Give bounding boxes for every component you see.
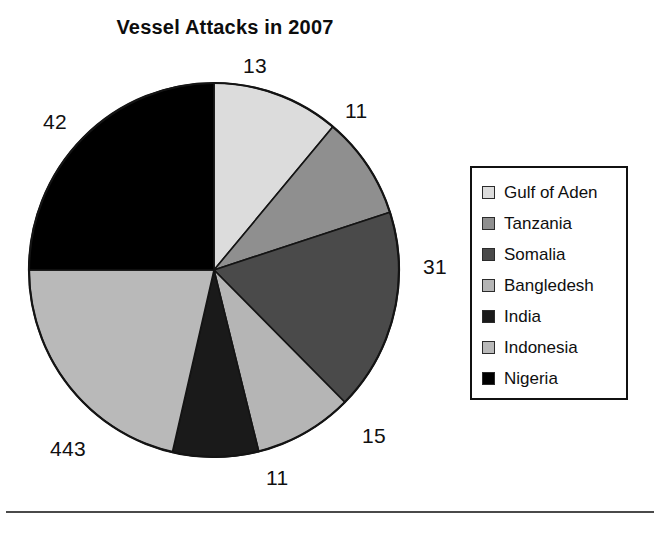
- legend-item-bangledesh[interactable]: Bangledesh: [482, 270, 626, 301]
- legend-item-india[interactable]: India: [482, 301, 626, 332]
- data-label-nigeria: 42: [43, 110, 67, 134]
- legend-swatch-icon: [482, 248, 495, 261]
- chart-title: Vessel Attacks in 2007: [90, 16, 360, 39]
- data-label-indonesia: 443: [50, 437, 86, 461]
- legend-item-label: Indonesia: [504, 339, 578, 356]
- legend-swatch-icon: [482, 310, 495, 323]
- legend-item-indonesia[interactable]: Indonesia: [482, 332, 626, 363]
- data-label-gulf-of-aden: 13: [243, 54, 267, 78]
- pie-slice-group: [29, 83, 399, 457]
- legend-item-label: Bangledesh: [504, 277, 594, 294]
- bottom-divider: [6, 511, 654, 513]
- legend-swatch-icon: [482, 341, 495, 354]
- legend-item-label: Gulf of Aden: [504, 184, 598, 201]
- legend-swatch-icon: [482, 279, 495, 292]
- legend-item-tanzania[interactable]: Tanzania: [482, 208, 626, 239]
- legend-swatch-icon: [482, 372, 495, 385]
- legend-item-label: Tanzania: [504, 215, 572, 232]
- pie-chart-figure: Vessel Attacks in 2007 13 11 31 15 11 44…: [0, 0, 660, 533]
- legend-item-label: Somalia: [504, 246, 565, 263]
- legend-item-nigeria[interactable]: Nigeria: [482, 363, 626, 394]
- pie-svg: [22, 76, 412, 468]
- pie-chart-area: [22, 76, 412, 468]
- data-label-somalia: 31: [423, 255, 447, 279]
- legend-item-label: Nigeria: [504, 370, 558, 387]
- data-label-tanzania: 11: [345, 99, 367, 123]
- legend-item-gulf-of-aden[interactable]: Gulf of Aden: [482, 177, 626, 208]
- data-label-bangledesh: 15: [362, 424, 386, 448]
- data-label-india: 11: [266, 466, 288, 490]
- legend-swatch-icon: [482, 186, 495, 199]
- legend-item-somalia[interactable]: Somalia: [482, 239, 626, 270]
- legend-swatch-icon: [482, 217, 495, 230]
- legend: Gulf of AdenTanzaniaSomaliaBangledeshInd…: [470, 166, 628, 400]
- legend-item-label: India: [504, 308, 541, 325]
